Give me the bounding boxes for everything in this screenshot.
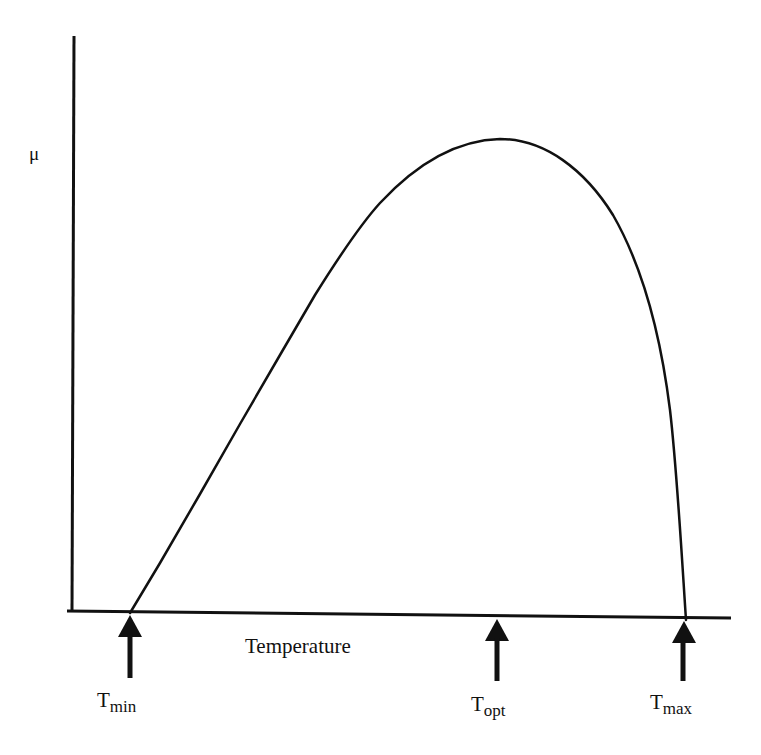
y-axis-label: μ: [29, 143, 39, 165]
x-axis: [67, 611, 731, 618]
tmax-label: Tmax: [650, 690, 692, 715]
topt-label: Topt: [471, 692, 506, 717]
topt-arrow-icon: [485, 619, 509, 681]
tmin-label-base: T: [97, 688, 110, 712]
tmax-label-sub: max: [663, 699, 692, 718]
y-axis: [72, 36, 74, 612]
growth-curve: [130, 139, 686, 620]
tmin-label-sub: min: [110, 697, 136, 716]
topt-label-base: T: [471, 692, 484, 716]
tmax-arrow-icon: [672, 621, 696, 681]
topt-label-sub: opt: [484, 701, 506, 720]
growth-rate-diagram: [0, 0, 761, 755]
tmin-arrow-icon: [118, 615, 142, 678]
tmax-label-base: T: [650, 690, 663, 714]
x-axis-label: Temperature: [245, 634, 351, 659]
tmin-label: Tmin: [97, 688, 136, 713]
